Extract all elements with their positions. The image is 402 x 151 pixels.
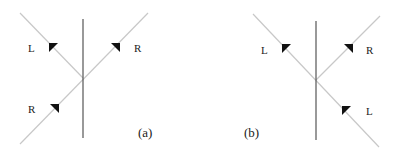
arrow-icon — [282, 44, 291, 53]
label-upper-left: L — [261, 44, 268, 56]
label-lower-right: L — [366, 105, 373, 117]
arrow-icon — [342, 106, 351, 115]
arrow-icon — [344, 44, 353, 53]
label-lower-left: R — [28, 103, 36, 115]
panel-caption: (a) — [138, 125, 152, 140]
label-upper-left: L — [28, 42, 35, 54]
label-upper-right: R — [366, 44, 374, 56]
panel-caption: (b) — [244, 125, 259, 140]
panel-a: L R R (a) — [20, 13, 152, 144]
label-upper-right: R — [134, 42, 142, 54]
arrow-icon — [111, 43, 120, 52]
panel-b: L R L (b) — [244, 14, 380, 147]
diagram-canvas: L R R (a) L R L (b) — [0, 0, 402, 151]
